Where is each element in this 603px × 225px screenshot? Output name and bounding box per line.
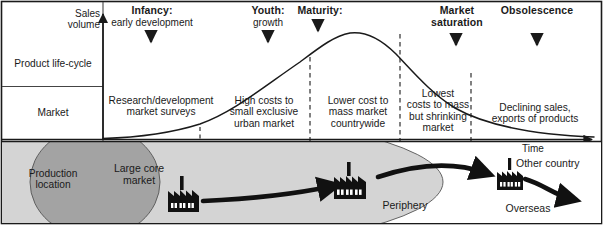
factory-icon-periphery [334,162,366,199]
relocation-arrow-1 [203,186,333,201]
stage-heading-market-saturation: Market [424,5,490,17]
market-cell-declining-sales: Declining sales, exports of products [474,102,596,125]
market-cell-high-costs: High costs to small exclusive urban mark… [222,95,306,129]
row-label-market: Market [6,107,100,118]
x-axis-label: Time [508,143,558,154]
market-cell-lowest-costs: Lowest costs to mass but shrinking marke… [404,88,472,134]
y-axis-label: Salesvolume [52,8,100,30]
y-axis-label-line2: volume [68,19,100,30]
stage-heading-obsolescence: Obsolescence [487,5,587,17]
diagram-canvas: Salesvolume Time Product life-cycle Mark… [0,0,603,225]
stage-heading-infancy: Infancy: [108,5,196,17]
row-label-product-life-cycle: Product life-cycle [6,58,100,69]
stage-heading-maturity: Maturity: [285,5,355,17]
stage-sub-market-saturation: saturation [418,17,496,29]
map-label-periphery: Periphery [368,200,442,212]
relocation-arrow-3 [525,179,572,199]
row-label-production-location: Production location [6,168,100,191]
market-cell-lower-cost: Lower cost to mass market countrywide [318,95,398,129]
market-cell-research-development: Research/development market surveys [104,95,218,118]
relocation-arrow-2 [378,166,486,177]
map-label-other-country: Other country [516,158,600,170]
map-label-overseas: Overseas [492,203,564,215]
stage-sub-youth: growth [238,17,298,28]
map-label-large-core-market: Large core market [104,163,174,187]
y-axis-label-line1: Sales [75,8,100,19]
stage-sub-infancy: early development [100,17,204,28]
